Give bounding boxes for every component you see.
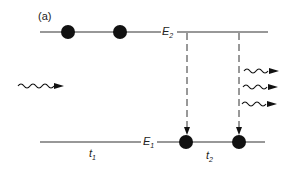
- outgoing-photon-wave-icon-1: [244, 68, 279, 74]
- outgoing-photon-wave-icon-3: [242, 101, 277, 107]
- time-label-t2: t2: [206, 150, 213, 163]
- electron-lower-2: [232, 135, 246, 149]
- electron-lower-1: [179, 135, 193, 149]
- upper-level-label: E2: [162, 26, 173, 39]
- electron-upper-2: [113, 25, 127, 39]
- lower-level-label: E1: [143, 136, 154, 149]
- transition-arrow-2: [236, 33, 242, 135]
- panel-label: (a): [38, 11, 51, 22]
- incoming-photon-wave-icon: [18, 83, 64, 89]
- electron-upper-1: [61, 25, 75, 39]
- transition-arrow-1: [184, 33, 190, 135]
- energy-level-diagram: [0, 0, 291, 177]
- time-label-t1: t1: [89, 148, 96, 161]
- outgoing-photon-wave-icon-2: [243, 84, 278, 90]
